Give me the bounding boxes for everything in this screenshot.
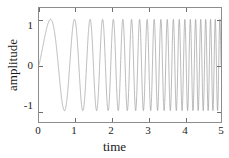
y-tick-label-0: 0 [11,59,33,71]
x-axis-label: time [0,139,229,155]
x-tick-1 [75,8,76,12]
y-tick-1 [39,20,43,21]
x-tick-3 [149,8,150,12]
y-tick-right-0 [217,66,221,67]
x-tick-4 [186,8,187,12]
plot-area [38,7,222,123]
x-tick-top-3 [149,118,150,122]
x-tick-label-3: 3 [137,124,159,136]
x-tick-label-0: 0 [27,124,49,136]
chirp-curve [39,8,221,122]
x-tick-2 [112,8,113,12]
x-tick-label-1: 1 [63,124,85,136]
y-tick-right-neg1 [217,112,221,113]
x-tick-label-5: 5 [210,124,229,136]
y-tick-label-neg1: -1 [11,99,33,111]
y-tick-neg1 [39,112,43,113]
x-tick-label-2: 2 [100,124,122,136]
x-tick-top-4 [186,118,187,122]
x-tick-top-1 [75,118,76,122]
chart-figure: amplitude 1 0 -1 0 1 2 3 4 5 time [0,0,229,158]
x-tick-label-4: 4 [174,124,196,136]
y-tick-0 [39,66,43,67]
y-tick-label-1: 1 [11,19,33,31]
x-tick-top-2 [112,118,113,122]
x-tick-0 [39,8,40,12]
y-tick-right-1 [217,20,221,21]
